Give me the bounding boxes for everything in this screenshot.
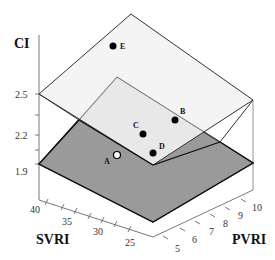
ci-tick-2-2: 2.2 xyxy=(15,130,28,141)
svri-tick-30: 30 xyxy=(93,226,103,237)
svri-tick-25: 25 xyxy=(125,237,135,248)
svri-axis-title: SVRI xyxy=(36,232,69,247)
point-a xyxy=(114,152,121,159)
pvri-tick-8: 8 xyxy=(223,218,228,229)
pvri-tick-9: 9 xyxy=(238,210,243,221)
ci-axis-title: CI xyxy=(14,36,30,51)
point-b-label: B xyxy=(180,107,186,116)
pvri-tick-10: 10 xyxy=(252,202,262,213)
svri-tick-35: 35 xyxy=(62,216,72,227)
ci-tick-2-5: 2.5 xyxy=(15,89,28,100)
svri-tick-40: 40 xyxy=(30,204,40,215)
point-d-label: D xyxy=(159,142,165,151)
3d-chart: E B C D A CI SVRI PVRI 2.5 2.2 1.9 40 35… xyxy=(0,0,275,260)
chart-container: E B C D A CI SVRI PVRI 2.5 2.2 1.9 40 35… xyxy=(0,0,275,260)
pvri-axis-title: PVRI xyxy=(232,232,266,247)
point-e xyxy=(110,43,117,50)
pvri-tick-5: 5 xyxy=(175,243,180,254)
point-a-label: A xyxy=(104,157,110,166)
ci-tick-1-9: 1.9 xyxy=(15,166,28,177)
pvri-tick-6: 6 xyxy=(192,234,197,245)
point-c xyxy=(140,131,147,138)
pvri-tick-7: 7 xyxy=(209,226,214,237)
point-e-label: E xyxy=(120,42,125,51)
point-d xyxy=(150,150,157,157)
point-b xyxy=(172,117,179,124)
point-c-label: C xyxy=(133,121,139,130)
